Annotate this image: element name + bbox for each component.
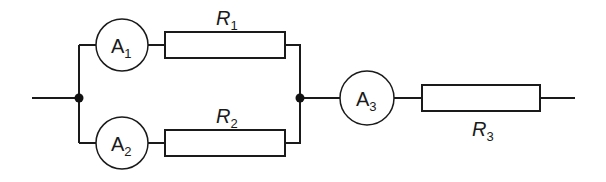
svg-text:R1: R1: [216, 7, 238, 33]
circuit-diagram: A1 A2 A3 R1 R2 R3: [0, 0, 606, 182]
ammeter-a3: A3: [340, 71, 394, 125]
svg-text:R2: R2: [216, 105, 238, 131]
right-bus-wire: [285, 45, 300, 143]
ammeter-a2: A2: [96, 117, 148, 169]
resistor-r3: R3: [422, 85, 540, 144]
resistor-r1: R1: [165, 7, 285, 58]
left-junction-node: [75, 94, 84, 103]
resistor-r2: R2: [165, 105, 285, 156]
svg-text:R3: R3: [472, 118, 494, 144]
right-junction-node: [296, 94, 305, 103]
ammeter-a1: A1: [96, 19, 148, 71]
